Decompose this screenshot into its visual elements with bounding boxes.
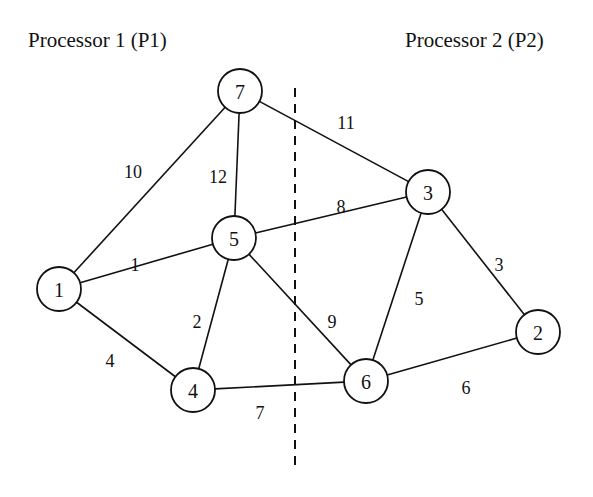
node-3: 3 <box>406 170 450 214</box>
edge-weight-label: 9 <box>328 312 337 332</box>
node-7: 7 <box>218 69 262 113</box>
edge-3-6 <box>373 213 421 360</box>
node-1: 1 <box>37 267 81 311</box>
edge-3-2 <box>442 209 525 314</box>
edge-1-4 <box>77 302 176 377</box>
edge-weight-label: 10 <box>124 162 142 182</box>
edge-weight-label: 2 <box>193 312 202 332</box>
edge-7-5 <box>235 113 239 216</box>
edge-1-5 <box>80 244 213 283</box>
node-label: 2 <box>533 322 543 344</box>
node-label: 1 <box>54 279 64 301</box>
edge-5-3 <box>255 197 406 233</box>
node-2: 2 <box>516 310 560 354</box>
edge-weight-label: 11 <box>337 113 354 133</box>
edge-5-4 <box>199 259 229 369</box>
edge-weight-label: 12 <box>209 167 227 187</box>
node-label: 5 <box>229 228 239 250</box>
edge-weight-label: 7 <box>256 403 265 423</box>
edge-weight-label: 3 <box>495 255 504 275</box>
edge-6-2 <box>387 338 517 375</box>
edge-weight-label: 6 <box>462 378 471 398</box>
edge-7-3 <box>259 101 408 181</box>
edge-4-6 <box>215 382 344 389</box>
edge-weight-label: 1 <box>131 255 140 275</box>
node-4: 4 <box>171 368 215 412</box>
graph-diagram: 101211184297536 1234567 <box>0 0 593 497</box>
node-label: 4 <box>188 380 198 402</box>
nodes-layer: 1234567 <box>37 69 560 412</box>
edge-labels-layer: 101211184297536 <box>106 113 504 423</box>
edge-weight-label: 4 <box>106 351 115 371</box>
node-5: 5 <box>212 216 256 260</box>
node-label: 7 <box>235 81 245 103</box>
edge-weight-label: 8 <box>337 197 346 217</box>
edge-5-6 <box>249 254 351 365</box>
edge-weight-label: 5 <box>415 289 424 309</box>
node-label: 6 <box>361 371 371 393</box>
node-label: 3 <box>423 182 433 204</box>
edges-layer <box>74 101 525 388</box>
node-6: 6 <box>344 359 388 403</box>
